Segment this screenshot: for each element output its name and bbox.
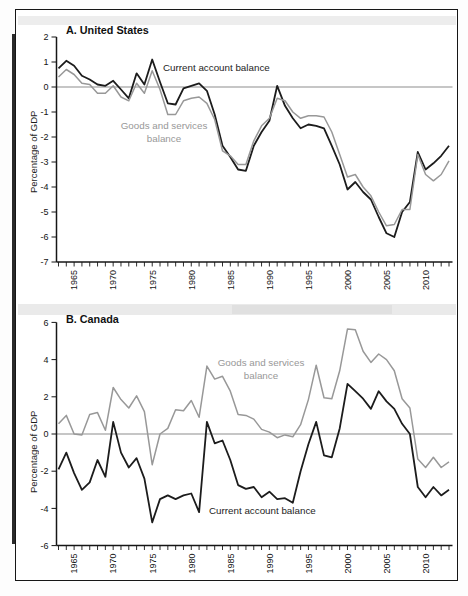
panel-b-y-tick-label: -4 [40, 504, 48, 514]
panel-a-x-tick-label: 1990 [265, 270, 275, 290]
panel-b-y-tick-label: 6 [43, 318, 48, 328]
panel-a-series-line-current_account [59, 60, 450, 238]
panel-a-y-tick-label: -6 [40, 232, 48, 242]
panel-a-x-tick-label: 1970 [108, 270, 118, 290]
panel-b-y-tick-label: 4 [43, 355, 48, 365]
panel-b-x-tick-label: 1965 [69, 554, 79, 574]
panel-a-y-tick-label: 2 [43, 32, 48, 42]
panel-a-series-label: Goods and services [121, 120, 208, 131]
panel-a-x-tick-label: 1980 [187, 270, 197, 290]
panel-a-x-tick-label: 1965 [69, 270, 79, 290]
panel-a-y-tick-label: -4 [40, 182, 48, 192]
panel-a-x-tick-label: 1985 [226, 270, 236, 290]
panel-b-x-tick-label: 1975 [148, 554, 158, 574]
panel-b-y-tick-label: 0 [43, 429, 48, 439]
panel-b-series-label: Current account balance [209, 505, 316, 516]
panel-a-series-label: Current account balance [163, 62, 270, 73]
panel-a-y-tick-label: 0 [43, 82, 48, 92]
chart-canvas: 210-1-2-3-4-5-6-719651970197519801985199… [0, 0, 468, 596]
panel-a-y-tick-label: -2 [40, 132, 48, 142]
panel-a-y-tick-label: -1 [40, 107, 48, 117]
panel-a-y-tick-label: -3 [40, 157, 48, 167]
figure-page: A. United States B. Canada Percentage of… [0, 0, 468, 596]
panel-b-series-line-goods_services [59, 329, 450, 468]
panel-b-x-tick-label: 2005 [382, 554, 392, 574]
panel-a-y-tick-label: -5 [40, 207, 48, 217]
panel-b-x-tick-label: 1990 [265, 554, 275, 574]
panel-a-y-tick-label: 1 [43, 57, 48, 67]
panel-b-y-tick-label: 2 [43, 392, 48, 402]
panel-a-x-tick-label: 1995 [304, 270, 314, 290]
panel-b-y-tick-label: -6 [40, 541, 48, 551]
panel-a-x-tick-label: 2000 [343, 270, 353, 290]
panel-a-series-label: balance [147, 133, 182, 144]
panel-a-x-tick-label: 2010 [421, 270, 431, 290]
panel-b-y-tick-label: -2 [40, 466, 48, 476]
panel-a-x-tick-label: 1975 [148, 270, 158, 290]
panel-b-x-tick-label: 1995 [304, 554, 314, 574]
panel-b-x-tick-label: 2010 [421, 554, 431, 574]
panel-b-series-label: balance [244, 370, 279, 381]
panel-a-y-tick-label: -7 [40, 257, 48, 267]
panel-b-series-label: Goods and services [218, 357, 305, 368]
panel-b-series-line-current_account [59, 384, 450, 523]
panel-b-x-tick-label: 1985 [226, 554, 236, 574]
panel-b-x-tick-label: 2000 [343, 554, 353, 574]
panel-b-x-tick-label: 1970 [108, 554, 118, 574]
panel-a-x-tick-label: 2005 [382, 270, 392, 290]
panel-b-x-tick-label: 1980 [187, 554, 197, 574]
